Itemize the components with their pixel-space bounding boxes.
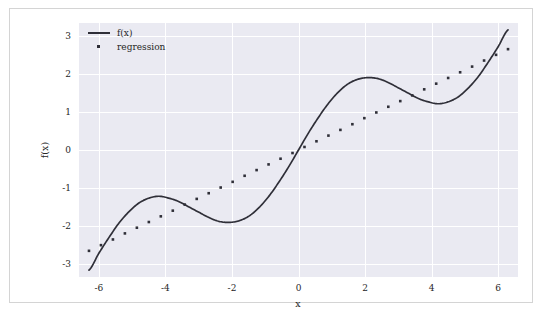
x-tick-label: -6 <box>95 283 104 293</box>
regression-point <box>471 65 474 68</box>
regression-point <box>231 181 234 184</box>
legend-dot-icon <box>86 41 112 52</box>
regression-point <box>339 129 342 132</box>
regression-point <box>495 54 498 57</box>
y-tick-label: 3 <box>49 31 71 41</box>
figure-frame: f(x) regression 3210-1-2-3 -6-4-20246 x … <box>9 8 533 303</box>
regression-point <box>447 77 450 80</box>
y-tick-label: -3 <box>49 259 71 269</box>
y-tick-label: 1 <box>49 107 71 117</box>
regression-point <box>327 134 330 137</box>
y-tick-label: -1 <box>49 183 71 193</box>
regression-point <box>375 111 378 114</box>
y-tick-label: 2 <box>49 69 71 79</box>
x-tick-label: 4 <box>429 283 435 293</box>
regression-point <box>483 59 486 62</box>
x-tick-label: 0 <box>296 283 302 293</box>
regression-point <box>219 186 222 189</box>
x-tick-label: 6 <box>495 283 501 293</box>
regression-point <box>411 94 414 97</box>
regression-point <box>183 203 186 206</box>
regression-point <box>160 215 163 218</box>
legend-label-regression: regression <box>112 42 165 52</box>
x-axis-label: x <box>295 298 300 309</box>
regression-point <box>148 221 151 224</box>
y-axis-label: f(x) <box>39 142 50 158</box>
regression-point <box>315 140 318 143</box>
regression-point <box>88 250 91 253</box>
regression-point <box>351 123 354 126</box>
regression-point <box>435 82 438 85</box>
regression-point <box>171 209 174 212</box>
regression-point <box>195 198 198 201</box>
regression-point <box>207 192 210 195</box>
data-layer <box>79 23 518 277</box>
legend-line-icon <box>86 27 112 38</box>
legend: f(x) regression <box>86 27 165 52</box>
series-fx-line <box>89 30 508 270</box>
regression-point <box>100 244 103 247</box>
regression-point <box>124 232 127 235</box>
regression-point <box>291 152 294 155</box>
regression-point <box>399 100 402 103</box>
legend-item-fx: f(x) <box>86 27 165 38</box>
y-tick-label: -2 <box>49 221 71 231</box>
y-tick-label: 0 <box>49 145 71 155</box>
regression-point <box>387 105 390 108</box>
regression-point <box>136 226 139 229</box>
plot-area <box>79 23 518 277</box>
regression-point <box>255 169 258 172</box>
regression-point <box>363 117 366 120</box>
regression-point <box>459 71 462 74</box>
x-tick-label: -4 <box>161 283 170 293</box>
regression-point <box>243 174 246 177</box>
regression-point <box>507 48 510 51</box>
regression-point <box>279 157 282 160</box>
regression-point <box>423 88 426 91</box>
legend-item-regression: regression <box>86 41 165 52</box>
legend-label-fx: f(x) <box>112 28 132 38</box>
x-tick-label: 2 <box>362 283 368 293</box>
x-tick-label: -2 <box>228 283 237 293</box>
regression-point <box>303 146 306 149</box>
regression-point <box>112 238 115 241</box>
chart-screenshot: f(x) regression 3210-1-2-3 -6-4-20246 x … <box>0 0 544 317</box>
regression-point <box>267 163 270 166</box>
